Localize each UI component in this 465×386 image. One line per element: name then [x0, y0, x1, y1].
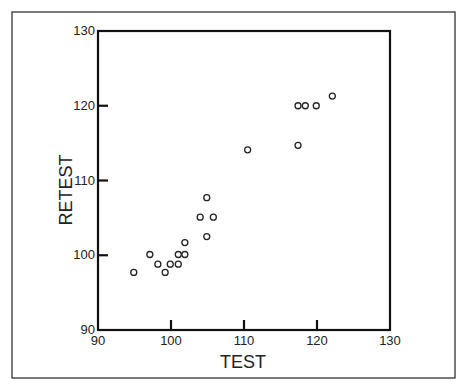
data-point-marker	[197, 214, 203, 220]
data-point-marker	[131, 269, 137, 275]
data-point-marker	[182, 252, 188, 258]
y-tick-label: 100	[73, 247, 95, 262]
x-tick-label: 100	[160, 333, 182, 348]
data-point-marker	[210, 214, 216, 220]
data-point-marker	[155, 261, 161, 267]
x-axis-title: TEST	[220, 352, 266, 372]
x-tick-label: 90	[91, 333, 105, 348]
data-points	[131, 93, 336, 275]
data-point-marker	[162, 269, 168, 275]
x-axis: 90100110120130	[91, 320, 401, 348]
plot-area: 90100110120130 90100110120130	[73, 23, 401, 348]
data-point-marker	[245, 147, 251, 153]
data-point-marker	[329, 93, 335, 99]
data-point-marker	[182, 240, 188, 246]
scatter-chart: 90100110120130 90100110120130 TEST RETES…	[0, 0, 465, 386]
data-point-marker	[295, 103, 301, 109]
data-point-marker	[175, 252, 181, 258]
outer-frame	[12, 12, 455, 378]
data-point-marker	[204, 234, 210, 240]
plot-border	[98, 31, 390, 330]
data-point-marker	[147, 252, 153, 258]
y-tick-label: 120	[73, 98, 95, 113]
x-tick-label: 130	[379, 333, 401, 348]
y-axis-title: RETEST	[56, 154, 76, 225]
data-point-marker	[295, 142, 301, 148]
data-point-marker	[204, 195, 210, 201]
y-tick-label: 130	[73, 23, 95, 38]
data-point-marker	[302, 103, 308, 109]
x-tick-label: 120	[306, 333, 328, 348]
data-point-marker	[167, 261, 173, 267]
data-point-marker	[175, 261, 181, 267]
y-tick-label: 110	[74, 173, 95, 188]
y-axis: 90100110120130	[73, 23, 108, 337]
x-tick-label: 110	[234, 333, 255, 348]
data-point-marker	[313, 103, 319, 109]
